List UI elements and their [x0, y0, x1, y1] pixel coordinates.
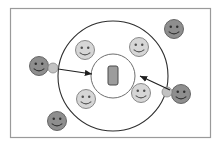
smiley-eye-right-icon [59, 117, 61, 119]
inner-smiley-bottom-left [77, 90, 96, 109]
outer-smiley-top-right [165, 20, 184, 39]
smiley-head-circle [132, 84, 151, 103]
outer-smiley-right [172, 85, 191, 104]
smiley-head-circle [165, 20, 184, 39]
smiley-eye-left-icon [135, 43, 137, 45]
smiley-eye-right-icon [88, 95, 90, 97]
smiley-head-circle [172, 85, 191, 104]
smiley-eye-left-icon [177, 90, 179, 92]
smiley-eye-left-icon [137, 89, 139, 91]
inner-smiley-top-right [130, 38, 149, 57]
smiley-head-circle [77, 90, 96, 109]
outer-smiley-bottom-left [48, 112, 67, 131]
smiley-eye-left-icon [35, 62, 37, 64]
smiley-eye-right-icon [87, 46, 89, 48]
outer-smiley-left [30, 57, 49, 76]
smiley-eye-right-icon [141, 43, 143, 45]
smiley-eye-right-icon [41, 62, 43, 64]
smiley-eye-right-icon [183, 90, 185, 92]
smiley-head-circle [130, 38, 149, 57]
smiley-eye-right-icon [176, 25, 178, 27]
diagram-canvas [0, 0, 220, 146]
smiley-eye-left-icon [53, 117, 55, 119]
smiley-head-circle [30, 57, 49, 76]
inner-smiley-top-left [76, 41, 95, 60]
smiley-eye-left-icon [82, 95, 84, 97]
smiley-eye-left-icon [81, 46, 83, 48]
smiley-eye-right-icon [143, 89, 145, 91]
inner-smiley-bottom-right [132, 84, 151, 103]
smiley-head-circle [48, 112, 67, 131]
smiley-head-circle [76, 41, 95, 60]
satellite-dot-left [48, 63, 58, 73]
diagram-svg [0, 0, 220, 146]
smiley-eye-left-icon [170, 25, 172, 27]
center-device-rect [108, 66, 118, 85]
